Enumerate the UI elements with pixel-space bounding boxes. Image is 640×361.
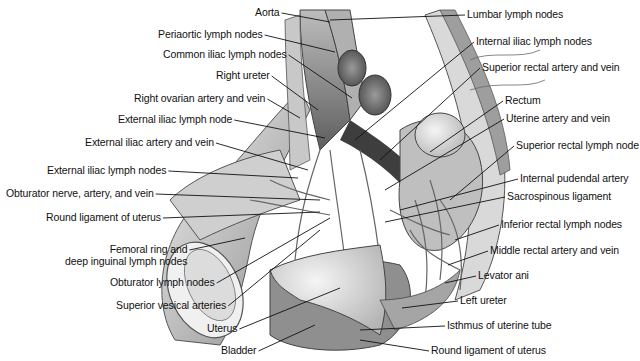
label-left-ureter: Left ureter	[460, 294, 507, 306]
label-periaortic-lymph-nodes: Periaortic lymph nodes	[158, 28, 263, 40]
label-internal-pudendal-artery: Internal pudendal artery	[520, 172, 629, 184]
rectum	[340, 113, 483, 250]
label-external-iliac-lymph-node: External iliac lymph node	[118, 113, 232, 125]
label-text: Round ligament of uterus	[431, 344, 546, 356]
label-text: Inferior rectal lymph nodes	[501, 218, 622, 230]
label-text: External iliac artery and vein	[85, 136, 214, 148]
label-superior-vesical-arteries: Superior vesical arteries	[116, 299, 226, 311]
label-text: Middle rectal artery and vein	[490, 244, 619, 256]
label-text: Obturator lymph nodes	[110, 276, 215, 288]
label-text: Superior rectal artery and vein	[482, 61, 620, 73]
label-text: Internal pudendal artery	[520, 172, 629, 184]
label-obturator-lymph-nodes: Obturator lymph nodes	[110, 276, 215, 288]
label-text: Bladder	[221, 344, 257, 356]
label-inferior-rectal-lymph-nodes: Inferior rectal lymph nodes	[501, 218, 622, 230]
label-text: Uterine artery and vein	[506, 112, 610, 124]
label-uterus: Uterus	[207, 322, 237, 334]
label-superior-rectal-lymph-node: Superior rectal lymph node	[516, 139, 639, 151]
label-text: Lumbar lymph nodes	[467, 8, 563, 20]
label-isthmus-of-uterine-tube: Isthmus of uterine tube	[447, 319, 552, 331]
label-text: Aorta	[255, 6, 280, 18]
label-text: Common iliac lymph nodes	[163, 48, 287, 60]
label-text: External iliac lymph nodes	[47, 164, 166, 176]
label-round-ligament-of-uterus: Round ligament of uterus	[46, 211, 161, 223]
label-text: Obturator nerve, artery, and vein	[6, 187, 154, 199]
label-middle-rectal-artery-and-vein: Middle rectal artery and vein	[490, 244, 619, 256]
label-text: Round ligament of uterus	[46, 211, 161, 223]
label-text: Right ovarian artery and vein	[134, 92, 265, 104]
label-rectum: Rectum	[505, 94, 541, 106]
label-external-iliac-artery-and-vein: External iliac artery and vein	[85, 136, 214, 148]
label-aorta: Aorta	[255, 6, 280, 18]
label-levator-ani: Levator ani	[478, 269, 529, 281]
label-round-ligament-of-uterus: Round ligament of uterus	[431, 344, 546, 356]
label-sacrospinous-ligament: Sacrospinous ligament	[507, 190, 611, 202]
label-text: Femoral ring and	[110, 243, 188, 255]
label-text: Periaortic lymph nodes	[158, 28, 263, 40]
label-common-iliac-lymph-nodes: Common iliac lymph nodes	[163, 48, 287, 60]
label-text: Sacrospinous ligament	[507, 190, 611, 202]
label-text: Internal iliac lymph nodes	[476, 35, 592, 47]
label-text: Levator ani	[478, 269, 529, 281]
label-text: Right ureter	[216, 69, 270, 81]
label-external-iliac-lymph-nodes: External iliac lymph nodes	[47, 164, 166, 176]
label-right-ovarian-artery-and-vein: Right ovarian artery and vein	[134, 92, 265, 104]
label-lumbar-lymph-nodes: Lumbar lymph nodes	[467, 8, 563, 20]
label-text: Left ureter	[460, 294, 507, 306]
label-text: External iliac lymph node	[118, 113, 232, 125]
label-uterine-artery-and-vein: Uterine artery and vein	[506, 112, 610, 124]
label-bladder: Bladder	[221, 344, 257, 356]
label-text-line2: deep inguinal lymph nodes	[65, 255, 187, 267]
label-text: Uterus	[207, 322, 237, 334]
label-obturator-nerve-artery-and-vein: Obturator nerve, artery, and vein	[6, 187, 154, 199]
label-superior-rectal-artery-and-vein: Superior rectal artery and vein	[482, 61, 620, 73]
label-text: Superior rectal lymph node	[516, 139, 639, 151]
label-right-ureter: Right ureter	[216, 69, 270, 81]
label-text: Superior vesical arteries	[116, 299, 226, 311]
label-text: Isthmus of uterine tube	[447, 319, 552, 331]
label-text: Rectum	[505, 94, 541, 106]
label-femoral-ring-and: Femoral ring anddeep inguinal lymph node…	[65, 243, 187, 267]
label-internal-iliac-lymph-nodes: Internal iliac lymph nodes	[476, 35, 592, 47]
